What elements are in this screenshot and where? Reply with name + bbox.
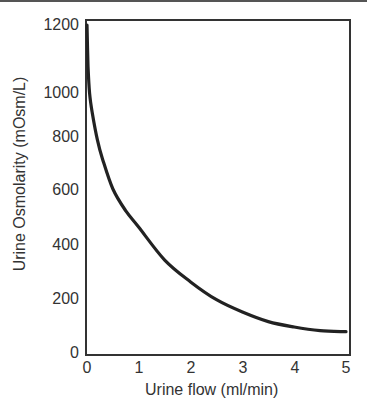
x-tick-1: 1 bbox=[135, 360, 144, 376]
x-tick-2: 2 bbox=[187, 360, 196, 376]
plot-area bbox=[0, 0, 367, 412]
y-tick-400: 400 bbox=[52, 237, 79, 253]
y-tick-1000: 1000 bbox=[43, 85, 79, 101]
y-tick-0: 0 bbox=[70, 345, 79, 361]
x-tick-5: 5 bbox=[342, 360, 351, 376]
y-tick-800: 800 bbox=[52, 129, 79, 145]
y-axis-label: Urine Osmolarity (mOsm/L) bbox=[11, 77, 29, 272]
y-tick-200: 200 bbox=[52, 291, 79, 307]
x-tick-4: 4 bbox=[291, 360, 300, 376]
x-axis-label: Urine flow (ml/min) bbox=[145, 381, 278, 399]
y-tick-600: 600 bbox=[52, 182, 79, 198]
y-tick-1200: 1200 bbox=[43, 17, 79, 33]
osmolarity-curve bbox=[87, 25, 346, 332]
x-tick-3: 3 bbox=[239, 360, 248, 376]
x-tick-0: 0 bbox=[83, 360, 92, 376]
